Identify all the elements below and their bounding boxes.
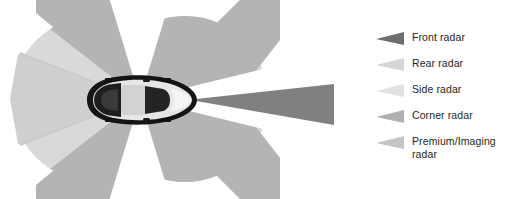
legend-label-premium-imaging-radar: Premium/Imaging radar bbox=[412, 134, 496, 160]
legend-item-corner-radar: Corner radar bbox=[376, 108, 513, 125]
side-radar-swatch-icon bbox=[376, 83, 404, 99]
rear-radar-swatch-icon bbox=[376, 57, 404, 73]
legend-label-front-radar: Front radar bbox=[412, 30, 465, 44]
radar-type-legend: Front radar Rear radar Side radar bbox=[376, 30, 513, 190]
car-wheel-front-left bbox=[161, 78, 171, 82]
corner-radar-swatch-icon bbox=[376, 109, 404, 125]
car-mirror-right bbox=[143, 118, 150, 122]
car-wheel-rear-left bbox=[105, 78, 115, 82]
car-wheel-front-right bbox=[161, 119, 171, 123]
legend-label-corner-radar: Corner radar bbox=[412, 108, 473, 122]
legend-label-rear-radar: Rear radar bbox=[412, 56, 463, 70]
legend-item-rear-radar: Rear radar bbox=[376, 56, 513, 73]
legend-label-side-radar: Side radar bbox=[412, 82, 461, 96]
radar-coverage-diagram bbox=[0, 0, 370, 199]
premium-imaging-radar-swatch-icon bbox=[376, 135, 404, 151]
legend-item-premium-imaging-radar: Premium/Imaging radar bbox=[376, 134, 513, 160]
legend-item-side-radar: Side radar bbox=[376, 82, 513, 99]
car-svg bbox=[77, 72, 203, 128]
car-wheel-rear-right bbox=[105, 118, 115, 122]
vehicle-top-view bbox=[77, 72, 203, 128]
radar-coverage-figure: Front radar Rear radar Side radar bbox=[0, 0, 513, 199]
legend-item-front-radar: Front radar bbox=[376, 30, 513, 47]
front-radar-swatch-icon bbox=[376, 31, 404, 47]
car-roof bbox=[121, 85, 145, 115]
car-mirror-left bbox=[143, 78, 150, 82]
